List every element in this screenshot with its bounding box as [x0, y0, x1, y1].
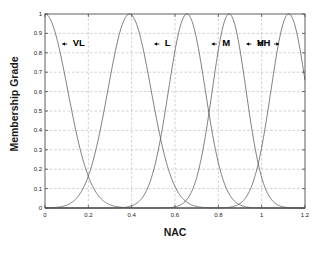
x-tick-label: 1.2	[295, 212, 315, 218]
x-tick-label: 0.2	[78, 212, 98, 218]
membership-function-chart: Membership Grade 00.10.20.30.40.50.60.70…	[0, 0, 328, 258]
y-tick-label: 0.5	[26, 108, 42, 114]
x-tick-label: 0.6	[165, 212, 185, 218]
y-tick-label: 0.7	[26, 69, 42, 75]
curve-label-vh: VH	[257, 38, 270, 48]
curve-label-m: M	[222, 38, 230, 48]
y-tick-label: 0.1	[26, 186, 42, 192]
y-tick-label: 0.6	[26, 89, 42, 95]
y-tick-label: 0.4	[26, 127, 42, 133]
y-tick-label: 0.9	[26, 30, 42, 36]
curve-label-vl: VL	[73, 38, 85, 48]
y-tick-label: 0.8	[26, 50, 42, 56]
x-tick-label: 0	[35, 212, 55, 218]
x-axis-title: NAC	[45, 226, 305, 238]
x-tick-label: 0.8	[208, 212, 228, 218]
x-tick-label: 1	[252, 212, 272, 218]
x-axis-title-text: NAC	[164, 226, 187, 238]
y-tick-label: 0	[26, 205, 42, 211]
y-tick-label: 0.2	[26, 166, 42, 172]
y-tick-label: 1	[26, 11, 42, 17]
curve-label-l: L	[165, 38, 171, 48]
x-tick-label: 0.4	[122, 212, 142, 218]
y-tick-label: 0.3	[26, 147, 42, 153]
